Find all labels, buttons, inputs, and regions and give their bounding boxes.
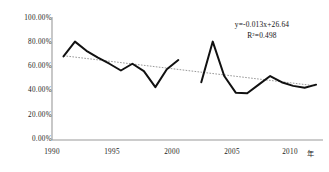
plot-area [0,0,329,172]
data-line-segment [63,42,178,88]
axis-lines [52,17,323,140]
data-line-segment [201,42,316,94]
chart-container: 100.00% 80.00% 60.00% 40.00% 20.00% 0.00… [0,0,329,172]
